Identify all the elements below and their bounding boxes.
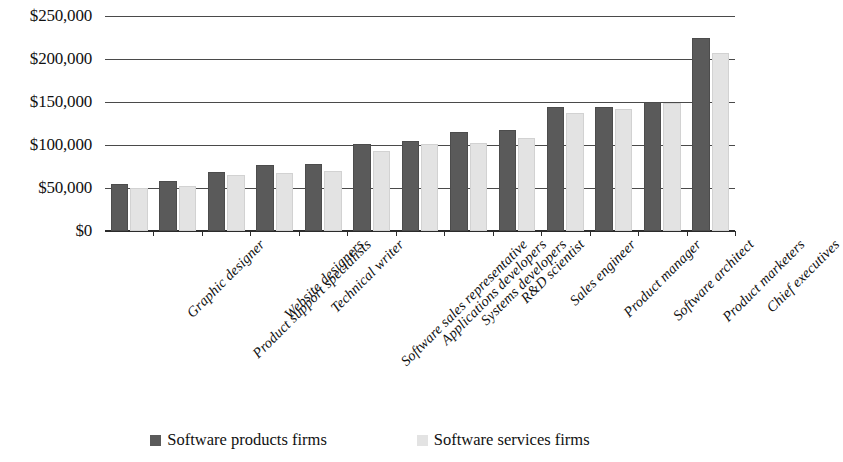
legend-item: Software services firms — [417, 430, 590, 450]
bar-software-products-firms — [402, 141, 419, 231]
bar-software-services-firms — [518, 138, 535, 231]
y-tick-label: $150,000 — [30, 92, 92, 112]
bar-software-products-firms — [353, 144, 370, 231]
x-axis-labels: Graphic designerProduct support speciali… — [105, 236, 735, 416]
bar-software-products-firms — [644, 102, 661, 231]
bar-software-products-firms — [305, 164, 322, 231]
chart-legend: Software products firmsSoftware services… — [0, 430, 740, 450]
bar-software-services-firms — [324, 171, 341, 231]
legend-label: Software services firms — [434, 430, 590, 450]
bar-group — [444, 16, 492, 231]
legend-label: Software products firms — [167, 430, 326, 450]
y-tick-label: $50,000 — [38, 178, 92, 198]
bar-software-products-firms — [111, 184, 128, 231]
bar-software-services-firms — [179, 186, 196, 231]
bar-group — [638, 16, 686, 231]
legend-item: Software products firms — [150, 430, 326, 450]
bar-group — [590, 16, 638, 231]
plot-area — [105, 16, 735, 231]
bar-group — [250, 16, 298, 231]
bar-software-services-firms — [276, 173, 293, 231]
legend-swatch-services-icon — [417, 435, 428, 446]
y-axis: $0$50,000$100,000$150,000$200,000$250,00… — [0, 0, 100, 240]
y-tick-label: $250,000 — [30, 6, 92, 26]
y-tick-label: $100,000 — [30, 135, 92, 155]
y-tick-label: $0 — [75, 221, 92, 241]
bar-software-products-firms — [450, 132, 467, 231]
bar-group — [347, 16, 395, 231]
bar-software-services-firms — [615, 109, 632, 231]
legend-swatch-products-icon — [150, 435, 161, 446]
y-tick-label: $200,000 — [30, 49, 92, 69]
bar-group — [541, 16, 589, 231]
bar-group — [396, 16, 444, 231]
bar-software-products-firms — [595, 107, 612, 231]
bar-software-products-firms — [208, 172, 225, 231]
bar-groups — [105, 16, 735, 231]
bar-software-products-firms — [499, 130, 516, 231]
bar-software-services-firms — [421, 144, 438, 231]
bar-software-products-firms — [256, 165, 273, 231]
bar-group — [299, 16, 347, 231]
bar-software-products-firms — [159, 181, 176, 231]
bar-software-services-firms — [712, 53, 729, 231]
bar-software-products-firms — [547, 107, 564, 231]
bar-software-services-firms — [663, 103, 680, 231]
x-axis-category-label: Graphic designer — [184, 236, 269, 321]
bar-group — [493, 16, 541, 231]
bar-group — [105, 16, 153, 231]
bar-software-services-firms — [373, 151, 390, 231]
bar-group — [202, 16, 250, 231]
bar-software-services-firms — [130, 188, 147, 231]
bar-software-services-firms — [227, 175, 244, 231]
bar-software-services-firms — [566, 113, 583, 231]
x-tick-mark — [735, 231, 736, 236]
bar-software-services-firms — [470, 143, 487, 231]
bar-group — [687, 16, 735, 231]
bar-software-products-firms — [692, 38, 709, 231]
bar-group — [153, 16, 201, 231]
